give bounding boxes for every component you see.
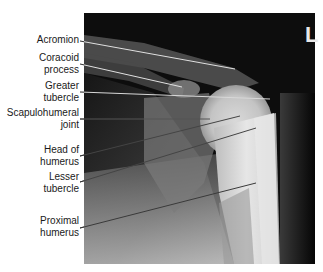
label-scapulohumeral-joint: Scapulohumeral joint [7, 107, 79, 131]
label-text: process [39, 64, 79, 76]
label-text: Head of [40, 144, 79, 156]
label-column: Acromion Coracoid process Greater tuberc… [0, 0, 84, 272]
label-head-of-humerus: Head of humerus [40, 144, 79, 168]
label-text: Scapulohumeral [7, 107, 79, 119]
label-text: tubercle [43, 183, 79, 195]
label-greater-tubercle: Greater tubercle [43, 80, 79, 104]
label-text: Acromion [37, 34, 79, 46]
label-text: tubercle [43, 92, 79, 104]
shoulder-xray-image [84, 13, 315, 264]
label-acromion: Acromion [37, 34, 79, 46]
label-proximal-humerus: Proximal humerus [40, 215, 79, 239]
label-text: Coracoid [39, 52, 79, 64]
side-marker-L: L [305, 24, 318, 46]
figure-caption-cropped [120, 266, 280, 272]
label-text: Proximal [40, 215, 79, 227]
label-text: humerus [40, 156, 79, 168]
label-lesser-tubercle: Lesser tubercle [43, 171, 79, 195]
label-text: Greater [43, 80, 79, 92]
label-text: Lesser [43, 171, 79, 183]
label-coracoid-process: Coracoid process [39, 52, 79, 76]
label-text: humerus [40, 227, 79, 239]
label-text: joint [7, 119, 79, 131]
xray-rendering [84, 13, 315, 264]
